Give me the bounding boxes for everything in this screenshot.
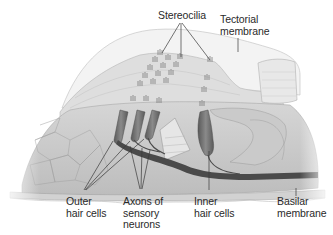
label-inner-hair-cells: Inner hair cells (194, 196, 234, 219)
organ-of-corti-diagram: Stereocilia Tectorial membrane Outer hai… (0, 0, 333, 235)
label-stereocilia: Stereocilia (158, 10, 206, 22)
label-outer-hair-cells: Outer hair cells (66, 196, 106, 219)
label-axons-of-sensory-neurons: Axons of sensory neurons (123, 196, 163, 231)
label-basilar-membrane: Basilar membrane (277, 196, 326, 219)
label-tectorial-membrane: Tectorial membrane (220, 14, 269, 37)
